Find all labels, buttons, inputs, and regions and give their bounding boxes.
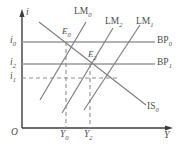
curve-label-bp1-base: BP <box>157 57 169 67</box>
is-lm-bp-chart: i Y O i0 i2 i1 Y0 Y2 LM0 LM2 LM1 BP0 BP1… <box>0 0 182 157</box>
x-tick-y0-sub: 0 <box>65 134 68 141</box>
point-label-e2: E2 <box>88 50 97 61</box>
point-label-e2-sub: 2 <box>94 54 97 61</box>
x-tick-y2: Y2 <box>84 130 93 141</box>
curve-label-lm0: LM0 <box>74 7 92 18</box>
curve-label-bp1: BP1 <box>157 58 172 69</box>
curve-label-is0: IS0 <box>147 102 159 113</box>
curve-label-bp0-sub: 0 <box>169 40 172 47</box>
y-tick-i0-sub: 0 <box>13 40 16 47</box>
lm2-curve <box>62 28 113 113</box>
y-tick-i1-sub: 1 <box>13 76 16 83</box>
x-tick-y2-sub: 2 <box>89 134 92 141</box>
curve-label-lm2-base: LM <box>105 16 119 26</box>
curve-label-bp0: BP0 <box>157 36 172 47</box>
curve-label-bp0-base: BP <box>157 35 169 45</box>
y-axis-arrowhead <box>19 9 24 17</box>
lm1-curve <box>84 25 140 110</box>
curve-label-is0-sub: 0 <box>155 106 158 113</box>
point-label-e0: E0 <box>62 27 71 38</box>
y-tick-i2-sub: 2 <box>13 62 16 69</box>
origin-label: O <box>11 128 18 138</box>
curve-label-lm1: LM1 <box>136 17 154 28</box>
curve-label-lm2: LM2 <box>105 17 123 28</box>
y-tick-i1: i1 <box>10 72 16 83</box>
point-label-e0-sub: 0 <box>68 31 71 38</box>
curve-label-bp1-sub: 1 <box>169 62 172 69</box>
curve-label-lm0-sub: 0 <box>88 11 91 18</box>
curve-label-lm0-base: LM <box>74 6 88 16</box>
y-axis-label: i <box>26 7 29 17</box>
curve-label-lm1-sub: 1 <box>150 21 153 28</box>
y-tick-i2: i2 <box>10 58 16 69</box>
curve-label-lm2-sub: 2 <box>119 21 122 28</box>
dashed-guides-group <box>22 42 118 128</box>
y-tick-i0: i0 <box>10 36 16 47</box>
x-axis-label: Y <box>164 130 170 140</box>
curve-label-lm1-base: LM <box>136 16 150 26</box>
x-tick-y0: Y0 <box>60 130 69 141</box>
